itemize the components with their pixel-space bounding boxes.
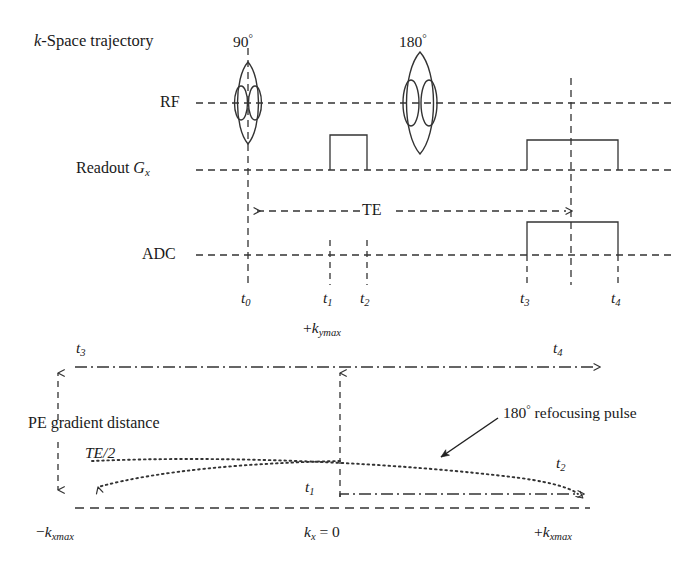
kspace-time-label-t3-sub: 3 (80, 347, 85, 358)
rf-pulse-180-label: 180° (399, 33, 427, 50)
figure-root: k-Space trajectory RF Readout Gx ADC 90°… (0, 0, 684, 569)
channel-label-adc: ADC (142, 246, 176, 262)
time-label-t3: t3 (520, 290, 530, 309)
kspace-time-label-t2: t2 (556, 455, 566, 474)
kspace-kx-max-sub: xmax (550, 531, 572, 542)
kspace-origin-label: kx = 0 (304, 524, 340, 543)
time-label-t0-sub: 0 (245, 297, 250, 308)
channel-label-readout-prefix: Readout (76, 159, 133, 176)
kspace-ky-max-symbol: k (312, 319, 319, 336)
kspace-kx-min-label: −kxmax (36, 524, 74, 543)
time-label-t1-sub: 1 (327, 297, 332, 308)
half-te-label: TE/2 (85, 445, 115, 461)
refocusing-annotation-rest: refocusing pulse (531, 404, 637, 421)
rf-pulse-90-label: 90° (233, 33, 253, 50)
time-label-t2: t2 (360, 290, 370, 309)
kspace-prephase-dotted (98, 461, 340, 487)
figure-vector-layer (0, 0, 684, 569)
channel-label-rf: RF (160, 94, 180, 110)
kspace-kx-min-sign: − (36, 523, 45, 540)
adc-block (527, 222, 618, 255)
kspace-kx-min-symbol: k (45, 523, 52, 540)
te-interval-label: TE (362, 202, 382, 218)
rf-pulse-90-angle: 90 (233, 33, 249, 50)
readout-gradient-block-1 (330, 135, 367, 170)
time-label-t4: t4 (611, 290, 621, 309)
kspace-kx-max-symbol: k (543, 523, 550, 540)
kspace-kx-max-label: +kxmax (534, 524, 572, 543)
channel-label-readout-symbol: G (133, 159, 145, 176)
kspace-refocus-dotted (92, 459, 578, 494)
kspace-time-label-t3: t3 (76, 340, 86, 359)
kspace-kx-min-sub: xmax (52, 531, 74, 542)
kspace-time-label-t1: t1 (305, 479, 315, 498)
kspace-origin-rest: = 0 (316, 523, 340, 540)
time-label-t3-sub: 3 (524, 297, 529, 308)
figure-title-rest: -Space trajectory (41, 31, 153, 50)
kspace-ky-max-sign: + (303, 319, 312, 336)
refocusing-pulse-annotation: 180° refocusing pulse (503, 404, 637, 421)
kspace-origin-symbol: k (304, 523, 311, 540)
kspace-time-label-t4: t4 (553, 340, 563, 359)
refocusing-annotation-arrow (441, 418, 498, 457)
kspace-ky-max-label: +kymax (303, 320, 341, 339)
rf-pulse-180-angle: 180 (399, 33, 422, 50)
time-label-t4-sub: 4 (615, 297, 620, 308)
kspace-ky-max-sub: ymax (319, 327, 341, 338)
kspace-kx-max-sign: + (534, 523, 543, 540)
degree-symbol-90: ° (249, 32, 253, 44)
kspace-time-label-t2-sub: 2 (560, 462, 565, 473)
time-label-t2-sub: 2 (364, 297, 369, 308)
kspace-time-label-t4-sub: 4 (557, 347, 562, 358)
kspace-time-label-t1-sub: 1 (309, 486, 314, 497)
time-label-t0: t0 (241, 290, 251, 309)
degree-symbol-180: ° (422, 32, 426, 44)
time-label-t1: t1 (323, 290, 333, 309)
pe-gradient-distance-label: PE gradient distance (28, 415, 160, 431)
figure-title: k-Space trajectory (34, 33, 154, 50)
refocusing-annotation-number: 180 (503, 404, 526, 421)
kspace-readout-low-line (340, 494, 578, 497)
channel-label-readout-sub: x (145, 166, 150, 178)
rf-pulse-180 (403, 52, 437, 154)
readout-gradient-block-2 (527, 140, 618, 170)
channel-label-readout: Readout Gx (76, 160, 150, 178)
